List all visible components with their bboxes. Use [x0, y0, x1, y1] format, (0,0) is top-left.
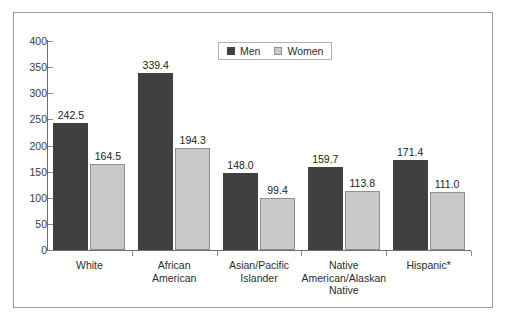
y-axis-tick-mark: [48, 146, 53, 147]
y-axis-tick-mark: [48, 67, 53, 68]
x-axis-tick-mark: [386, 251, 387, 256]
x-axis-tick-mark: [217, 251, 218, 256]
y-axis-tick-mark: [48, 198, 53, 199]
x-axis-category-label: White: [76, 259, 103, 272]
x-axis-category-label: Native American/Alaskan Native: [301, 259, 386, 297]
bar-women: [430, 192, 465, 250]
bar-women: [345, 191, 380, 250]
bar-women: [175, 148, 210, 250]
y-axis-tick-mark: [48, 224, 53, 225]
x-axis-tick-mark: [132, 251, 133, 256]
y-axis-tick-label: 400: [13, 35, 47, 47]
legend-label-men: Men: [240, 45, 260, 57]
bar-chart-figure: 050100150200250300350400 242.5164.5339.4…: [0, 0, 506, 323]
y-axis-tick-label: 250: [13, 113, 47, 125]
bar-value-label: 148.0: [227, 159, 253, 171]
bar-value-label: 339.4: [143, 59, 169, 71]
bar-value-label: 242.5: [58, 109, 84, 121]
bar-value-label: 159.7: [312, 153, 338, 165]
y-axis-tick-label: 100: [13, 192, 47, 204]
y-axis-tick-label: 300: [13, 87, 47, 99]
bar-value-label: 113.8: [350, 177, 376, 189]
legend-item-women: Women: [274, 45, 323, 57]
bar-men: [308, 167, 343, 250]
bar-value-label: 99.4: [267, 184, 287, 196]
bar-value-label: 164.5: [95, 150, 121, 162]
bar-value-label: 194.3: [180, 134, 206, 146]
y-axis-tick-mark: [48, 172, 53, 173]
legend-swatch-men-icon: [227, 47, 235, 55]
y-axis-tick-mark: [48, 119, 53, 120]
y-axis-tick-mark: [48, 250, 53, 251]
y-axis-tick-mark: [48, 93, 53, 94]
bar-men: [138, 73, 173, 250]
y-axis-tick-mark: [48, 41, 53, 42]
legend-item-men: Men: [227, 45, 260, 57]
bar-men: [223, 173, 258, 250]
x-axis-tick-mark: [301, 251, 302, 256]
chart-legend: Men Women: [218, 42, 332, 60]
bar-value-label: 171.4: [397, 146, 423, 158]
y-axis-tick-label: 0: [13, 244, 47, 256]
x-axis-line: [47, 250, 471, 251]
y-axis-tick-label: 350: [13, 61, 47, 73]
bar-women: [260, 198, 295, 250]
x-axis-category-label: Asian/Pacific Islander: [229, 259, 289, 284]
bar-men: [53, 123, 88, 250]
legend-label-women: Women: [287, 45, 323, 57]
legend-swatch-women-icon: [274, 47, 282, 55]
bar-women: [90, 164, 125, 250]
x-axis-category-label: Hispanic*: [406, 259, 450, 272]
bar-men: [393, 160, 428, 250]
y-axis-tick-label: 50: [13, 218, 47, 230]
x-axis-tick-mark: [471, 251, 472, 256]
y-axis-tick-label: 150: [13, 166, 47, 178]
x-axis-category-label: African American: [152, 259, 196, 284]
y-axis-tick-label: 200: [13, 140, 47, 152]
bar-value-label: 111.0: [435, 178, 460, 190]
